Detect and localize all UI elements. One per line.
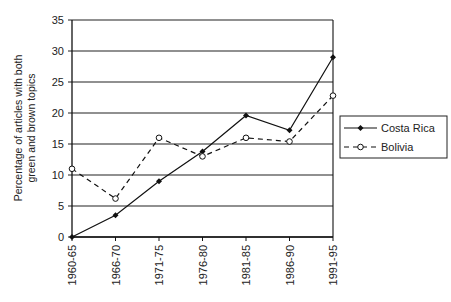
data-point <box>69 234 75 240</box>
data-point <box>243 135 249 141</box>
axes <box>72 20 333 237</box>
y-axis-title-line: green and brown topics <box>25 73 37 182</box>
data-point <box>330 54 336 60</box>
x-tick-label: 1966-70 <box>110 245 122 285</box>
x-axis-ticks: 1960-651966-701971-751976-801981-851986-… <box>66 237 339 285</box>
line-chart: 05101520253035 1960-651966-701971-751976… <box>0 0 451 302</box>
data-point <box>200 154 206 160</box>
data-point <box>287 127 293 133</box>
legend: Costa Rica Bolivia <box>340 116 447 158</box>
data-point <box>113 196 119 202</box>
legend-label: Bolivia <box>381 141 414 153</box>
x-tick-label: 1976-80 <box>197 245 209 285</box>
y-tick-label: 20 <box>52 107 64 119</box>
y-axis-title: Percentage of articles with bothgreen an… <box>12 55 37 202</box>
x-tick-label: 1971-75 <box>153 245 165 285</box>
y-tick-label: 15 <box>52 138 64 150</box>
legend-label: Costa Rica <box>381 122 436 134</box>
x-tick-label: 1960-65 <box>66 245 78 285</box>
gridlines <box>72 20 333 237</box>
y-tick-label: 5 <box>58 200 64 212</box>
data-point <box>156 135 162 141</box>
x-tick-label: 1991-95 <box>327 245 339 285</box>
x-tick-label: 1986-90 <box>284 245 296 285</box>
x-tick-label: 1981-85 <box>240 245 252 285</box>
data-point <box>287 139 293 145</box>
data-point <box>69 166 75 172</box>
y-tick-label: 0 <box>58 231 64 243</box>
y-tick-label: 25 <box>52 76 64 88</box>
series-bolivia <box>69 93 336 202</box>
y-tick-label: 35 <box>52 14 64 26</box>
y-axis-title-line: Percentage of articles with both <box>12 55 24 202</box>
y-axis-ticks: 05101520253035 <box>52 14 72 243</box>
data-point <box>330 93 336 99</box>
y-tick-label: 30 <box>52 45 64 57</box>
open-circle-marker-icon <box>358 144 364 150</box>
y-tick-label: 10 <box>52 169 64 181</box>
